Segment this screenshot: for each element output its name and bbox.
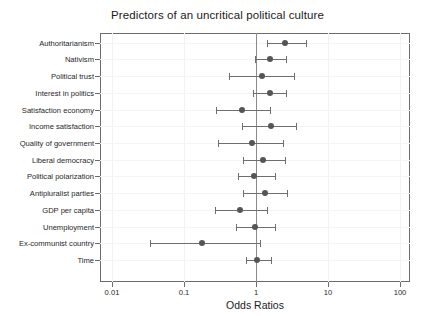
y-axis-tick-mark	[95, 43, 100, 44]
x-axis-tick-label: 0.1	[179, 288, 190, 297]
confidence-interval-cap	[296, 123, 297, 130]
confidence-interval-cap	[271, 257, 272, 264]
y-axis-tick-label: Liberal democracy	[32, 155, 94, 164]
confidence-interval-cap	[283, 140, 284, 147]
y-axis-tick-mark	[95, 143, 100, 144]
y-axis-tick-label: Time	[77, 256, 94, 265]
y-axis-tick-label: Political polarization	[27, 172, 94, 181]
x-axis-tick-mark	[400, 282, 401, 287]
confidence-interval-cap	[255, 56, 256, 63]
y-axis-tick-label: Quality of government	[20, 139, 94, 148]
y-axis-tick-label: GDP per capita	[42, 205, 94, 214]
y-axis-tick-mark	[95, 193, 100, 194]
y-axis-tick-mark	[95, 110, 100, 111]
forest-plot-figure: Predictors of an uncritical political cu…	[0, 0, 435, 316]
x-axis-tick-label: 0.01	[105, 288, 120, 297]
confidence-interval-cap	[270, 107, 271, 114]
y-axis-tick-label: Antipluralist parties	[30, 189, 94, 198]
y-axis-tick-label: Authoritarianism	[39, 38, 94, 47]
confidence-interval-cap	[243, 190, 244, 197]
confidence-interval-cap	[229, 73, 230, 80]
y-axis-tick-label: Interest in politics	[35, 88, 94, 97]
confidence-interval-cap	[306, 40, 307, 47]
confidence-interval-cap	[267, 40, 268, 47]
y-axis-tick-mark	[95, 260, 100, 261]
y-axis-tick-mark	[95, 243, 100, 244]
confidence-interval-cap	[267, 207, 268, 214]
confidence-interval-cap	[275, 173, 276, 180]
confidence-interval-cap	[215, 207, 216, 214]
x-axis-tick-label: 100	[394, 288, 407, 297]
y-axis-tick-label: Political trust	[51, 72, 94, 81]
y-axis-tick-label: Nativism	[65, 55, 94, 64]
odds-ratio-point	[268, 123, 274, 129]
y-axis-tick-label: Unemployment	[43, 222, 94, 231]
confidence-interval-cap	[286, 56, 287, 63]
vertical-gridline	[112, 33, 113, 282]
x-axis-tick-mark	[256, 282, 257, 287]
y-axis-tick-mark	[95, 59, 100, 60]
confidence-interval-cap	[275, 224, 276, 231]
odds-ratio-point	[237, 207, 243, 213]
confidence-interval-cap	[238, 173, 239, 180]
odds-ratio-point	[267, 90, 273, 96]
confidence-interval-cap	[285, 157, 286, 164]
confidence-interval-cap	[243, 157, 244, 164]
y-axis-tick-label: Ex-communist country	[19, 239, 94, 248]
confidence-interval-cap	[287, 190, 288, 197]
odds-ratio-point	[249, 140, 255, 146]
odds-ratio-point	[262, 190, 268, 196]
odds-ratio-point	[254, 257, 260, 263]
y-axis-tick-label: Income satisfaction	[29, 122, 94, 131]
odds-ratio-point	[199, 240, 205, 246]
odds-ratio-point	[282, 40, 288, 46]
confidence-interval-cap	[260, 240, 261, 247]
odds-ratio-point	[259, 73, 265, 79]
y-axis-tick-mark	[95, 93, 100, 94]
y-axis-labels: AuthoritarianismNativismPolitical trustI…	[0, 0, 94, 316]
confidence-interval-cap	[253, 90, 254, 97]
y-axis-tick-label: Satisfaction economy	[22, 105, 94, 114]
odds-ratio-point	[267, 56, 273, 62]
y-axis-tick-mark	[95, 126, 100, 127]
vertical-gridline	[400, 33, 401, 282]
y-axis-tick-mark	[95, 160, 100, 161]
x-axis-tick-mark	[112, 282, 113, 287]
plot-area	[100, 33, 410, 282]
odds-ratio-point	[260, 157, 266, 163]
y-axis-tick-mark	[95, 176, 100, 177]
y-axis-tick-mark	[95, 210, 100, 211]
confidence-interval-cap	[286, 90, 287, 97]
confidence-interval-cap	[216, 107, 217, 114]
confidence-interval-cap	[294, 73, 295, 80]
x-axis-tick-mark	[184, 282, 185, 287]
confidence-interval-cap	[150, 240, 151, 247]
confidence-interval-cap	[218, 140, 219, 147]
confidence-interval-cap	[246, 257, 247, 264]
confidence-interval-cap	[236, 224, 237, 231]
x-axis-tick-label: 10	[324, 288, 332, 297]
vertical-gridline	[184, 33, 185, 282]
reference-line-or-1	[256, 33, 257, 282]
horizontal-gridline	[100, 43, 410, 44]
odds-ratio-point	[252, 224, 258, 230]
vertical-gridline	[328, 33, 329, 282]
odds-ratio-point	[239, 107, 245, 113]
y-axis-tick-mark	[95, 227, 100, 228]
confidence-interval-cap	[242, 123, 243, 130]
x-axis-title: Odds Ratios	[100, 299, 410, 311]
x-axis-tick-label: 1	[254, 288, 258, 297]
y-axis-tick-mark	[95, 76, 100, 77]
x-axis-tick-mark	[328, 282, 329, 287]
